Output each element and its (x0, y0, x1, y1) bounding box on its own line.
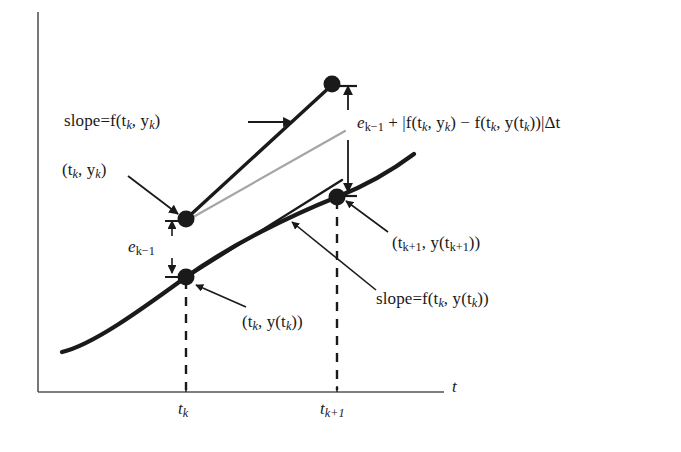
tangent-at-exact-point (176, 180, 342, 284)
figure-root: slope=f(tk, yk) (tk, yk) ek−1 + |f(tk, y… (0, 0, 681, 452)
axis-label-t: t (452, 377, 457, 397)
arrow-to-point-tk (196, 285, 246, 307)
diagram-canvas (0, 0, 681, 452)
data-points-group (178, 76, 346, 286)
tick-label-tk1: tk+1 (320, 399, 345, 421)
point-numeric-approx-at-tk1 (324, 76, 341, 93)
label-point-exact-tk1: (tk+1, y(tk+1)) (392, 234, 480, 254)
previous-error-bracket (165, 221, 180, 277)
point-numeric-approx-at-tk (178, 211, 195, 228)
point-exact-at-tk1 (329, 189, 346, 206)
label-slope-exact: slope=f(tk, y(tk)) (376, 290, 489, 310)
exact-solution-curve (62, 154, 414, 352)
arrow-to-point-tk1 (346, 201, 388, 232)
arrow-to-tangent-line (292, 222, 376, 290)
label-previous-error: ek−1 (128, 238, 155, 258)
drop-lines-group (186, 200, 337, 390)
tick-label-tk: tk (178, 399, 188, 421)
arrow-to-point-yk (128, 176, 178, 214)
label-point-approx-tk: (tk, yk) (62, 161, 107, 181)
point-exact-at-tk (178, 269, 195, 286)
label-slope-euler: slope=f(tk, yk) (64, 112, 160, 132)
label-point-exact-tk: (tk, y(tk)) (242, 313, 303, 333)
label-slope-euler-text: slope=f(t (64, 111, 126, 130)
label-error-bound-formula: ek−1 + |f(tk, yk) − f(tk, y(tk))|Δt (357, 114, 560, 134)
